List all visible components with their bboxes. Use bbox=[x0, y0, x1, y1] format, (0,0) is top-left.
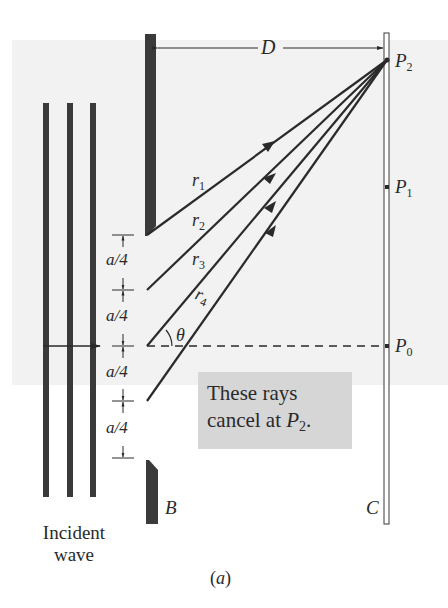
ray-label-r3: r3 bbox=[192, 249, 205, 273]
point-label-P0: P0 bbox=[395, 335, 413, 360]
spacing-label-3: a/4 bbox=[106, 362, 128, 382]
callout-line-1: These rays bbox=[207, 380, 352, 407]
incident-wave-label: Incident wave bbox=[33, 522, 115, 566]
callout-line-2: cancel at P2. bbox=[207, 407, 352, 440]
ray-label-r2: r2 bbox=[192, 210, 205, 234]
angle-theta-label: θ bbox=[176, 325, 185, 346]
point-P0-dot bbox=[385, 344, 389, 348]
barrier-bottom bbox=[146, 460, 158, 524]
diffraction-diagram bbox=[0, 0, 448, 608]
cancel-callout-box: These rays cancel at P2. bbox=[198, 372, 352, 449]
barrier-label: B bbox=[165, 497, 177, 519]
spacing-label-2: a/4 bbox=[106, 306, 128, 326]
distance-label: D bbox=[261, 36, 275, 59]
rays bbox=[147, 60, 387, 401]
spacing-label-1: a/4 bbox=[106, 250, 128, 270]
point-label-P2: P2 bbox=[395, 50, 413, 75]
barrier-top bbox=[145, 34, 156, 236]
incident-wavefronts bbox=[43, 103, 96, 497]
point-P1-dot bbox=[385, 185, 389, 189]
figure-caption: (a) bbox=[210, 568, 231, 589]
screen-label: C bbox=[366, 497, 379, 519]
ray-label-r1: r1 bbox=[192, 170, 205, 194]
angle-theta-arc bbox=[166, 330, 172, 346]
spacing-label-4: a/4 bbox=[106, 418, 128, 438]
point-label-P1: P1 bbox=[395, 176, 413, 201]
screen-C bbox=[384, 33, 389, 524]
